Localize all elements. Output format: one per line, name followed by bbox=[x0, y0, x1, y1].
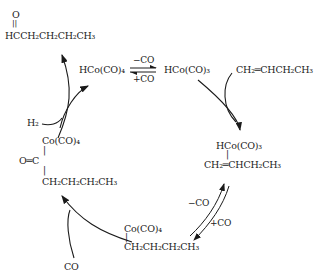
right-plus-co: +CO bbox=[210, 219, 231, 228]
aldehyde-product: HCCH₂CH₂CH₂CH₃ bbox=[5, 31, 95, 41]
acyl-carbonyl: O═C bbox=[19, 156, 39, 166]
pi-complex-cobalt: HCo(CO)₃ bbox=[216, 141, 262, 151]
top-plus-co: +CO bbox=[133, 75, 154, 84]
right-minus-co: −CO bbox=[188, 199, 209, 208]
right-equilibrium-arrows bbox=[190, 184, 229, 240]
alkyl-chain: CH₂CH₂CH₂CH₃ bbox=[124, 242, 199, 252]
acyl-bond-2: | bbox=[43, 166, 46, 175]
acyl-chain: CH₂CH₂CH₂CH₃ bbox=[42, 177, 117, 187]
top-minus-co: −CO bbox=[133, 56, 154, 65]
hydroformylation-cycle-diagram: O || HCCH₂CH₂CH₂CH₃ HCo(CO)₄ −CO +CO HCo… bbox=[0, 0, 335, 278]
alkyl-cobalt-top: Co(CO)₄ bbox=[124, 224, 162, 234]
co-reagent: CO bbox=[64, 262, 79, 272]
h2-reagent: H₂ bbox=[27, 118, 39, 128]
acyl-cobalt-top: Co(CO)₄ bbox=[42, 136, 80, 146]
alkene-1-butene: CH₂═CHCH₂CH₃ bbox=[236, 65, 313, 75]
pi-complex-alkene: CH₂═CHCH₂CH₃ bbox=[204, 160, 281, 170]
catalyst-hco-co4: HCo(CO)₄ bbox=[79, 65, 125, 75]
active-catalyst-hco-co3: HCo(CO)₃ bbox=[164, 65, 210, 75]
aldehyde-double-bond: || bbox=[12, 20, 17, 28]
acyl-bond-1: | bbox=[43, 146, 46, 155]
pi-complex-bond: | bbox=[226, 150, 229, 159]
